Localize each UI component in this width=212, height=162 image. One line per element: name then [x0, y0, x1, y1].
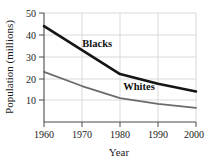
y-tick-label-30: 30 — [26, 52, 36, 63]
x-tick-label-1980: 1980 — [110, 129, 130, 140]
series-label-whites: Whites — [123, 81, 155, 92]
x-tick-label-1990: 1990 — [148, 129, 168, 140]
population-line-chart: 50 40 30 20 10 1960 1970 1980 1990 2000 … — [0, 0, 212, 162]
series-label-blacks: Blacks — [82, 38, 112, 49]
x-tick-label-2000: 2000 — [184, 129, 204, 140]
y-tick-label-50: 50 — [26, 8, 36, 19]
y-tick-label-20: 20 — [26, 74, 36, 85]
y-tick-label-40: 40 — [26, 30, 36, 41]
x-axis-title: Year — [109, 146, 130, 158]
y-axis-title: Population (millions) — [3, 20, 16, 114]
x-tick-label-1970: 1970 — [72, 129, 92, 140]
y-tick-label-10: 10 — [26, 95, 36, 106]
x-tick-label-1960: 1960 — [34, 129, 54, 140]
chart-canvas: 50 40 30 20 10 1960 1970 1980 1990 2000 … — [0, 0, 212, 162]
